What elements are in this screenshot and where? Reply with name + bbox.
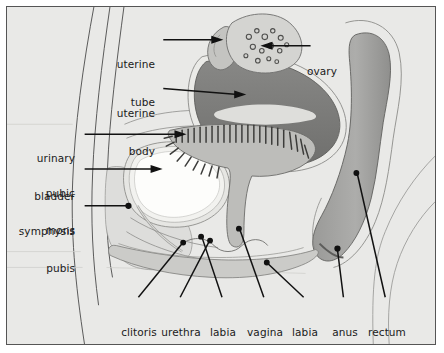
label-uterine-body-line1: uterine	[117, 107, 155, 120]
label-uterine-body-line2: body	[117, 145, 155, 158]
label-pubic-symphysis-line1: pubic	[19, 187, 75, 200]
figure-frame: uterine tube ovary uterine body urinary …	[6, 6, 436, 345]
label-uterine-tube-line1: uterine	[117, 58, 155, 71]
anatomy-figure: uterine tube ovary uterine body urinary …	[0, 0, 444, 353]
label-ovary: ovary	[307, 40, 337, 103]
label-mons-pubis-line2: pubis	[46, 262, 75, 275]
label-rectum-line1: rectum	[357, 326, 417, 339]
label-uterine-body: uterine body	[117, 82, 155, 182]
label-rectum: rectum	[357, 301, 417, 345]
label-ovary-line1: ovary	[307, 65, 337, 78]
label-mons-pubis-line1: mons	[46, 224, 75, 237]
label-mons-pubis: mons pubis	[46, 199, 75, 299]
